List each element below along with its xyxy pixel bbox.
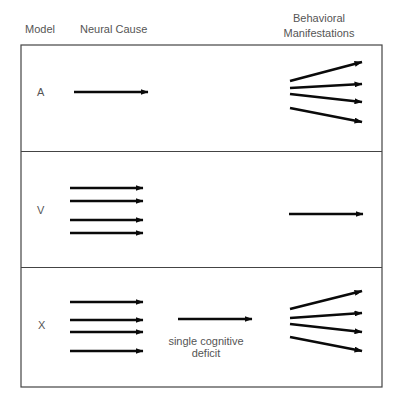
intermediate-label-line2: deficit <box>192 347 221 359</box>
causal-models-diagram: Model Neural Cause Behavioral Manifestat… <box>0 0 401 410</box>
arrow-icon <box>290 108 362 122</box>
header-neural-cause: Neural Cause <box>80 23 147 35</box>
arrow-icon <box>290 324 362 332</box>
header-model: Model <box>25 23 55 35</box>
panel-a: A <box>37 62 362 122</box>
arrow-icon <box>290 291 362 309</box>
column-headers: Model Neural Cause Behavioral Manifestat… <box>25 12 355 39</box>
intermediate-label-line1: single cognitive <box>168 335 243 347</box>
panel-x-neural-arrows <box>70 302 143 351</box>
panel-a-label: A <box>37 86 45 98</box>
panel-x: X single cognitive deficit <box>38 291 362 359</box>
arrow-icon <box>290 62 362 81</box>
arrow-icon <box>290 337 362 351</box>
panel-v-label: V <box>37 204 45 216</box>
arrow-icon <box>290 84 362 88</box>
panel-v: V <box>37 188 363 233</box>
panel-a-behavioral-arrows <box>290 62 362 122</box>
header-behavioral-line1: Behavioral <box>293 12 345 24</box>
panel-v-neural-arrows <box>70 188 143 233</box>
header-behavioral-line2: Manifestations <box>284 27 355 39</box>
arrow-icon <box>290 313 362 318</box>
panel-x-behavioral-arrows <box>290 291 362 351</box>
panel-x-label: X <box>38 319 46 331</box>
arrow-icon <box>290 94 362 102</box>
